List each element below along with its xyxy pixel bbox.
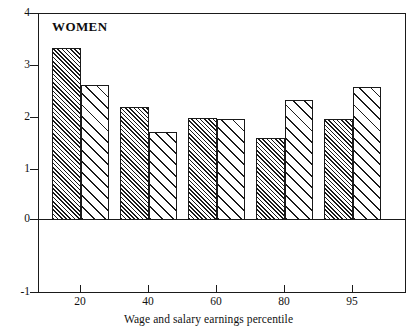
bar-40-series-b: [149, 132, 177, 220]
y-axis-label-neg1: -1: [4, 286, 30, 298]
bar-20-series-a: [52, 48, 81, 220]
y-tick-3: [30, 65, 38, 66]
x-axis-label-60: 60: [196, 296, 236, 308]
y-tick-2: [30, 117, 38, 118]
y-axis-labels: 4 3 2 1 0 -1: [0, 0, 30, 330]
x-tick-95: [352, 285, 353, 293]
panel-title: WOMEN: [52, 19, 107, 35]
x-tick-20: [80, 285, 81, 293]
bar-80-series-b: [285, 100, 313, 220]
bar-60-series-b: [217, 119, 245, 220]
x-axis-label-40: 40: [128, 296, 168, 308]
y-tick-neg1: [30, 292, 38, 293]
x-axis-title: Wage and salary earnings percentile: [0, 313, 417, 325]
y-axis-label-4: 4: [4, 7, 30, 19]
x-axis-label-95: 95: [332, 296, 372, 308]
y-tick-1: [30, 169, 38, 170]
bar-95-series-b: [353, 87, 381, 220]
bar-80-series-a: [256, 138, 285, 220]
y-tick-4: [30, 13, 38, 14]
x-tick-80: [284, 285, 285, 293]
y-axis-label-0: 0: [4, 213, 30, 225]
bar-20-series-b: [81, 85, 109, 220]
x-axis-label-20: 20: [60, 296, 100, 308]
y-axis-label-2: 2: [4, 111, 30, 123]
bar-40-series-a: [120, 107, 149, 220]
y-axis-label-1: 1: [4, 163, 30, 175]
bar-60-series-a: [188, 118, 217, 220]
x-axis-label-80: 80: [264, 296, 304, 308]
y-tick-0: [30, 219, 38, 220]
x-tick-60: [216, 285, 217, 293]
bar-chart-figure: WOMEN 4 3 2 1 0 -1 20 40: [0, 0, 417, 330]
bar-95-series-a: [324, 119, 353, 220]
y-axis-label-3: 3: [4, 59, 30, 71]
x-tick-40: [148, 285, 149, 293]
